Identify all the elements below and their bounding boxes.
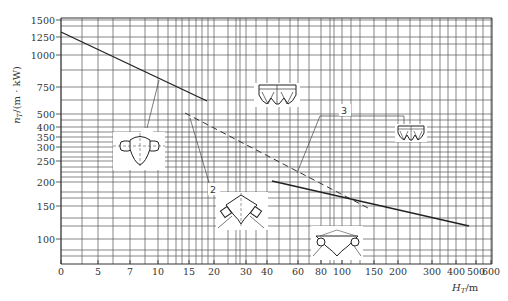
x-tick-label: 150 bbox=[365, 266, 383, 277]
y-tick-label: 200 bbox=[37, 177, 55, 188]
x-tick-label: 7 bbox=[127, 266, 133, 277]
x-tick-label: 5 bbox=[95, 266, 101, 277]
curve-label-3: 3 bbox=[341, 105, 347, 116]
y-axis-ticks: 150012501000750500400350300250200150100 bbox=[31, 15, 61, 245]
x-tick-label: 200 bbox=[389, 266, 407, 277]
x-axis-label: HT/m bbox=[451, 282, 479, 295]
profile-sketch-3-icon bbox=[311, 226, 363, 260]
profile-sketch-4-icon bbox=[254, 83, 300, 107]
x-tick-label: 80 bbox=[315, 266, 327, 277]
y-tick-label: 1000 bbox=[31, 50, 55, 61]
x-tick-label: 60 bbox=[292, 266, 304, 277]
y-tick-label: 1500 bbox=[31, 15, 55, 26]
y-tick-label: 150 bbox=[37, 201, 55, 212]
x-tick-label: 20 bbox=[208, 266, 220, 277]
x-tick-label: 10 bbox=[152, 266, 164, 277]
y-tick-label: 750 bbox=[37, 82, 55, 93]
profile-sketch-2-icon bbox=[216, 192, 268, 230]
y-tick-label: 250 bbox=[37, 156, 55, 167]
x-tick-label: 300 bbox=[423, 266, 441, 277]
y-tick-label: 500 bbox=[37, 109, 55, 120]
profile-sketch-1-icon bbox=[113, 132, 165, 170]
curve-1 bbox=[61, 32, 207, 101]
y-axis-label: nT/(m · kW) bbox=[11, 66, 24, 124]
x-tick-label: 600 bbox=[482, 266, 500, 277]
x-tick-label: 100 bbox=[333, 266, 351, 277]
y-tick-label: 100 bbox=[37, 234, 55, 245]
x-tick-label: 30 bbox=[240, 266, 252, 277]
x-tick-label: 0 bbox=[58, 266, 64, 277]
curve-label-2: 2 bbox=[210, 184, 216, 195]
x-tick-label: 400 bbox=[447, 266, 465, 277]
x-tick-label: 40 bbox=[261, 266, 273, 277]
x-tick-label: 15 bbox=[183, 266, 195, 277]
chart: 150012501000750500400350300250200150100 … bbox=[0, 0, 508, 301]
y-tick-label: 1250 bbox=[31, 32, 55, 43]
curve-3 bbox=[272, 181, 469, 226]
profile-sketch-5-icon bbox=[395, 124, 427, 142]
y-tick-label: 300 bbox=[37, 142, 55, 153]
